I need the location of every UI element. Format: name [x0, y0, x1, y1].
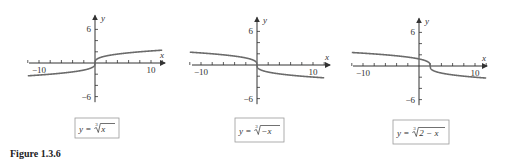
chart-panel-1: −10106−6xyy =3x [28, 13, 165, 138]
x-axis-label: x [324, 52, 329, 62]
y-axis-label: y [424, 16, 429, 26]
equation-lhs: y = [396, 128, 409, 138]
x-tick-label-neg: −10 [32, 65, 47, 75]
chart-panel-2: −10106−6xyy =3−x [190, 15, 330, 142]
radicand: 2 − x [419, 128, 438, 138]
y-tick-label-top: 6 [249, 26, 254, 36]
chart-panel-3: −10106−6xyy =32 − x [352, 16, 487, 144]
x-axis-label: x [159, 50, 164, 60]
y-axis-label: y [100, 13, 105, 23]
y-tick-label-bottom: −6 [243, 94, 253, 104]
y-tick-label-bottom: −6 [81, 92, 91, 102]
equation-lhs: y = [238, 126, 251, 136]
x-tick-label-pos: 10 [309, 67, 319, 77]
x-axis-label: x [481, 53, 486, 63]
y-tick-label-bottom: −6 [405, 95, 415, 105]
equation-lhs: y = [78, 124, 91, 134]
x-tick-label-neg: −10 [356, 68, 371, 78]
y-tick-label-top: 6 [411, 27, 416, 37]
figure-canvas: −10106−6xyy =3x−10106−6xyy =3−x−10106−6x… [0, 0, 510, 167]
x-tick-label-pos: 10 [147, 65, 157, 75]
figure-caption: Figure 1.3.6 [10, 148, 61, 159]
y-axis-label: y [262, 15, 267, 25]
x-tick-label-neg: −10 [194, 67, 209, 77]
radicand: x [100, 124, 105, 134]
y-tick-label-top: 6 [87, 24, 92, 34]
radicand: −x [261, 126, 271, 136]
